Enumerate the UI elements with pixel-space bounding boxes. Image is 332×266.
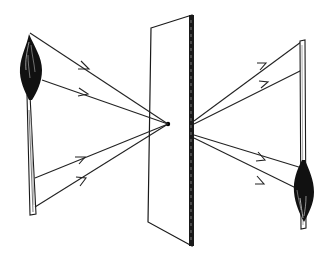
arrow-icon	[78, 88, 88, 96]
arrow-icon	[75, 157, 85, 164]
candle-object	[20, 34, 42, 215]
candle-image	[294, 160, 314, 222]
pinhole-camera-diagram: Pinhole camera: upright candle projected…	[0, 0, 332, 266]
flame-icon	[20, 34, 42, 100]
outgoing-rays	[194, 42, 302, 190]
arrow-icon	[255, 176, 264, 184]
incoming-rays	[30, 33, 168, 207]
inverted-flame-icon	[294, 160, 314, 222]
arrow-icon	[259, 81, 268, 88]
pinhole-screen	[148, 15, 194, 246]
